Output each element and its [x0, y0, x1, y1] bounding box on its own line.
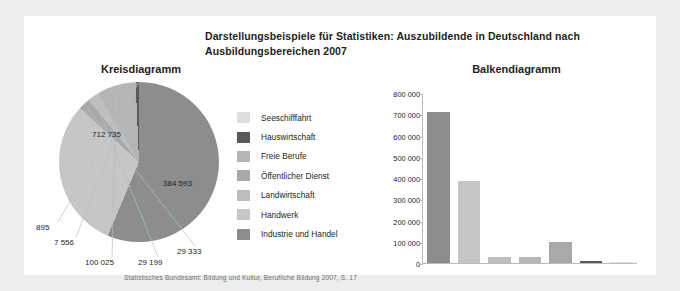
legend-swatch-icon	[237, 151, 250, 162]
legend-item: Öffentlicher Dienst	[237, 166, 387, 185]
y-axis-tick-label: 800 000	[393, 90, 420, 99]
pie-chart-subtitle: Kreisdiagramm	[41, 63, 241, 75]
legend-item: Industrie und Handel	[237, 224, 387, 243]
bar-slot	[423, 94, 454, 263]
y-axis-tick-mark	[420, 137, 423, 138]
bar-slot	[545, 94, 576, 263]
pie-label-seeschifffahrt: 895	[36, 223, 49, 232]
legend-swatch-icon	[237, 170, 250, 181]
legend-swatch-icon	[237, 132, 250, 143]
pie-leader-line	[94, 97, 158, 257]
legend-item-label: Handwerk	[261, 210, 298, 220]
pie-leader-line	[112, 86, 116, 257]
bar-slot	[484, 94, 515, 263]
figure-card: Darstellungsbeispiele für Statistiken: A…	[24, 16, 656, 275]
y-axis-tick-mark	[420, 94, 423, 95]
pie-leader-line	[58, 83, 139, 222]
y-axis-tick-label: 100 000	[393, 238, 420, 247]
legend-item-label: Industrie und Handel	[261, 229, 338, 239]
legend-item: Handwerk	[237, 205, 387, 224]
legend-swatch-icon	[237, 229, 250, 240]
y-axis-tick-mark	[420, 200, 423, 201]
bar-chart: 800 000700 000600 000500 000400 000300 0…	[376, 80, 646, 270]
pie-leader-line	[85, 105, 195, 246]
bar	[427, 112, 450, 263]
legend-swatch-icon	[237, 112, 250, 123]
bar	[519, 257, 542, 263]
y-axis-tick-mark	[420, 115, 423, 116]
y-axis-tick-label: 500 000	[393, 153, 420, 162]
pie-label-landwirtschaft: 29 199	[138, 258, 162, 267]
chart-legend: SeeschifffahrtHauswirtschaftFreie Berufe…	[237, 108, 387, 244]
y-axis-tick-mark	[420, 243, 423, 244]
y-axis-tick-mark	[420, 158, 423, 159]
legend-swatch-icon	[237, 209, 250, 220]
legend-item: Landwirtschaft	[237, 186, 387, 205]
y-axis-tick-label: 300 000	[393, 196, 420, 205]
y-axis-tick-label: 700 000	[393, 111, 420, 120]
y-axis-tick-label: 600 000	[393, 132, 420, 141]
bar	[610, 262, 633, 263]
pie-label-oeffentlicher-dienst: 29 333	[177, 247, 201, 256]
bar-chart-y-axis: 800 000700 000600 000500 000400 000300 0…	[376, 94, 420, 264]
bar-slot	[606, 94, 637, 263]
pie-label-handwerk: 384 593	[163, 179, 192, 188]
pie-leader-lines	[40, 80, 240, 260]
y-axis-tick-label: 200 000	[393, 217, 420, 226]
y-axis-tick-mark	[420, 222, 423, 223]
legend-item-label: Landwirtschaft	[261, 190, 315, 200]
pie-label-freie-berufe: 100 025	[85, 258, 114, 267]
bar-slot	[515, 94, 546, 263]
legend-item-label: Freie Berufe	[261, 151, 307, 161]
y-axis-tick-label: 400 000	[393, 175, 420, 184]
bar-series	[423, 94, 637, 263]
bar	[580, 261, 603, 263]
bar	[458, 181, 481, 263]
y-axis-tick-mark	[420, 179, 423, 180]
bar-slot	[576, 94, 607, 263]
legend-swatch-icon	[237, 190, 250, 201]
bar-chart-plot-area	[422, 94, 637, 264]
pie-label-hauswirtschaft: 7 556	[54, 238, 74, 247]
bar-chart-subtitle: Balkendiagramm	[409, 63, 624, 75]
source-note: Statistisches Bundesamt: Bildung und Kul…	[124, 274, 544, 281]
y-axis-tick-mark	[420, 264, 423, 265]
legend-item-label: Seeschifffahrt	[261, 113, 311, 123]
legend-item-label: Hauswirtschaft	[261, 132, 315, 142]
figure-title: Darstellungsbeispiele für Statistiken: A…	[205, 29, 625, 58]
bar	[488, 257, 511, 263]
legend-item-label: Öffentlicher Dienst	[261, 171, 329, 181]
bar-slot	[454, 94, 485, 263]
legend-item: Freie Berufe	[237, 147, 387, 166]
pie-chart: 712 735 384 593 29 333 29 199 100 025 7 …	[40, 80, 240, 260]
legend-item: Hauswirtschaft	[237, 127, 387, 146]
pie-label-industrie-und-handel: 712 735	[92, 130, 121, 139]
bar	[549, 242, 572, 263]
legend-item: Seeschifffahrt	[237, 108, 387, 127]
